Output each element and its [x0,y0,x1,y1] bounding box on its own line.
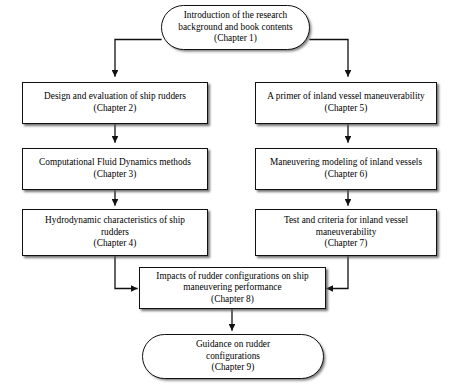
node-chapter3[interactable]: Computational Fluid Dynamics methods (Ch… [22,148,208,190]
node-chapter3-label: Computational Fluid Dynamics methods (Ch… [33,157,197,180]
edge-chapter1-chapter2 [115,40,161,77]
node-chapter4[interactable]: Hydrodynamic characteristics of ship rud… [22,209,208,256]
node-chapter2-label: Design and evaluation of ship rudders (C… [38,91,192,114]
node-chapter6-label: Maneuvering modeling of inland vessels (… [264,157,428,180]
edge-chapter4-chapter8 [115,256,137,289]
node-chapter6[interactable]: Maneuvering modeling of inland vessels (… [255,148,437,190]
flowchart-canvas: Introduction of the research background … [0,0,457,390]
node-chapter1-label: Introduction of the research background … [172,10,298,45]
node-chapter7[interactable]: Test and criteria for inland vessel mane… [255,209,437,256]
node-chapter8-label: Impacts of rudder configurations on ship… [150,271,314,306]
edge-chapter7-chapter8 [327,256,348,289]
edge-chapter1-chapter5 [310,40,348,77]
node-chapter9-label: Guidance on rudder configurations (Chapt… [190,339,276,374]
node-chapter7-label: Test and criteria for inland vessel mane… [278,215,414,250]
node-chapter9[interactable]: Guidance on rudder configurations (Chapt… [142,334,324,379]
node-chapter4-label: Hydrodynamic characteristics of ship rud… [39,215,191,250]
node-chapter5[interactable]: A primer of inland vessel maneuverabilit… [255,82,437,124]
flowchart-connectors [0,0,457,390]
node-chapter1[interactable]: Introduction of the research background … [161,5,310,50]
node-chapter5-label: A primer of inland vessel maneuverabilit… [261,91,431,114]
node-chapter8[interactable]: Impacts of rudder configurations on ship… [139,267,326,309]
node-chapter2[interactable]: Design and evaluation of ship rudders (C… [22,82,208,124]
